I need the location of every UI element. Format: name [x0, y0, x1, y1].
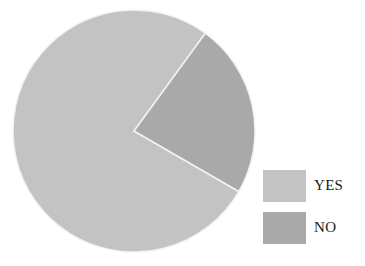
legend-label-no: NO	[314, 219, 336, 236]
legend-item-no: NO	[263, 212, 363, 245]
pie-chart-svg	[12, 9, 256, 253]
legend-swatch-no	[263, 212, 306, 244]
legend-label-yes: YES	[314, 177, 343, 194]
legend-swatch-yes	[263, 170, 306, 202]
pie-chart	[12, 9, 256, 253]
legend-item-yes: YES	[263, 170, 363, 203]
